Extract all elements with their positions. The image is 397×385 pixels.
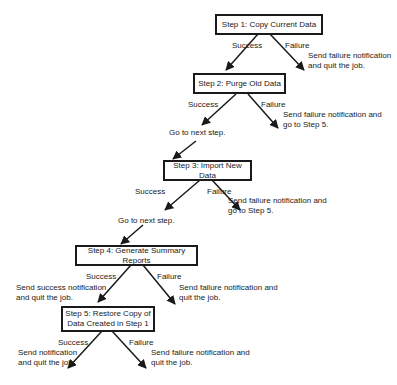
step4-failure-arrow <box>143 265 175 304</box>
step2-success-label: Success <box>188 100 218 110</box>
step2-label: Step 2: Purge Old Data <box>198 79 281 89</box>
step5-failure-note: Send failure notification and quit the j… <box>151 348 250 368</box>
step3-next-arrow <box>121 225 143 244</box>
step2-box: Step 2: Purge Old Data <box>193 73 286 94</box>
step4-failure-label: Failure <box>157 272 181 282</box>
step5-success-label: Success <box>58 338 88 348</box>
step5-label: Step 5: Restore Copy of Data Created in … <box>65 309 150 329</box>
step1-box: Step 1: Copy Current Data <box>215 14 323 35</box>
step2-failure-note: Send failure notification and go to Step… <box>283 110 382 130</box>
step2-failure-label: Failure <box>261 100 285 110</box>
step5-failure-label: Failure <box>129 338 153 348</box>
step2-success-note: Go to next step. <box>169 128 225 138</box>
step3-failure-note: Send failure notification and go to Step… <box>228 196 327 216</box>
step5-failure-arrow <box>112 331 146 368</box>
step1-label: Step 1: Copy Current Data <box>222 20 316 30</box>
step1-success-arrow <box>226 34 258 70</box>
step3-label: Step 3: Import New Data <box>165 161 250 181</box>
step1-failure-arrow <box>270 34 304 70</box>
step3-success-arrow <box>165 180 200 210</box>
step3-success-label: Success <box>135 187 165 197</box>
step4-success-label: Success <box>86 272 116 282</box>
step1-success-label: Success <box>232 41 262 51</box>
step2-next-arrow <box>173 141 196 159</box>
step3-success-note: Go to next step. <box>118 216 174 226</box>
step4-success-note: Send success notification and quit the j… <box>16 283 106 303</box>
step5-success-note: Send notification and quit the job. <box>18 348 77 368</box>
step4-label: Step 4: Generate Summary Reports <box>77 246 196 266</box>
step5-box: Step 5: Restore Copy of Data Created in … <box>61 306 155 332</box>
step3-box: Step 3: Import New Data <box>163 160 252 181</box>
step4-box: Step 4: Generate Summary Reports <box>75 245 198 266</box>
step1-failure-note: Send failure notification and quit the j… <box>308 51 391 71</box>
step1-failure-label: Failure <box>285 41 309 51</box>
step4-failure-note: Send failure notification and quit the j… <box>179 283 278 303</box>
